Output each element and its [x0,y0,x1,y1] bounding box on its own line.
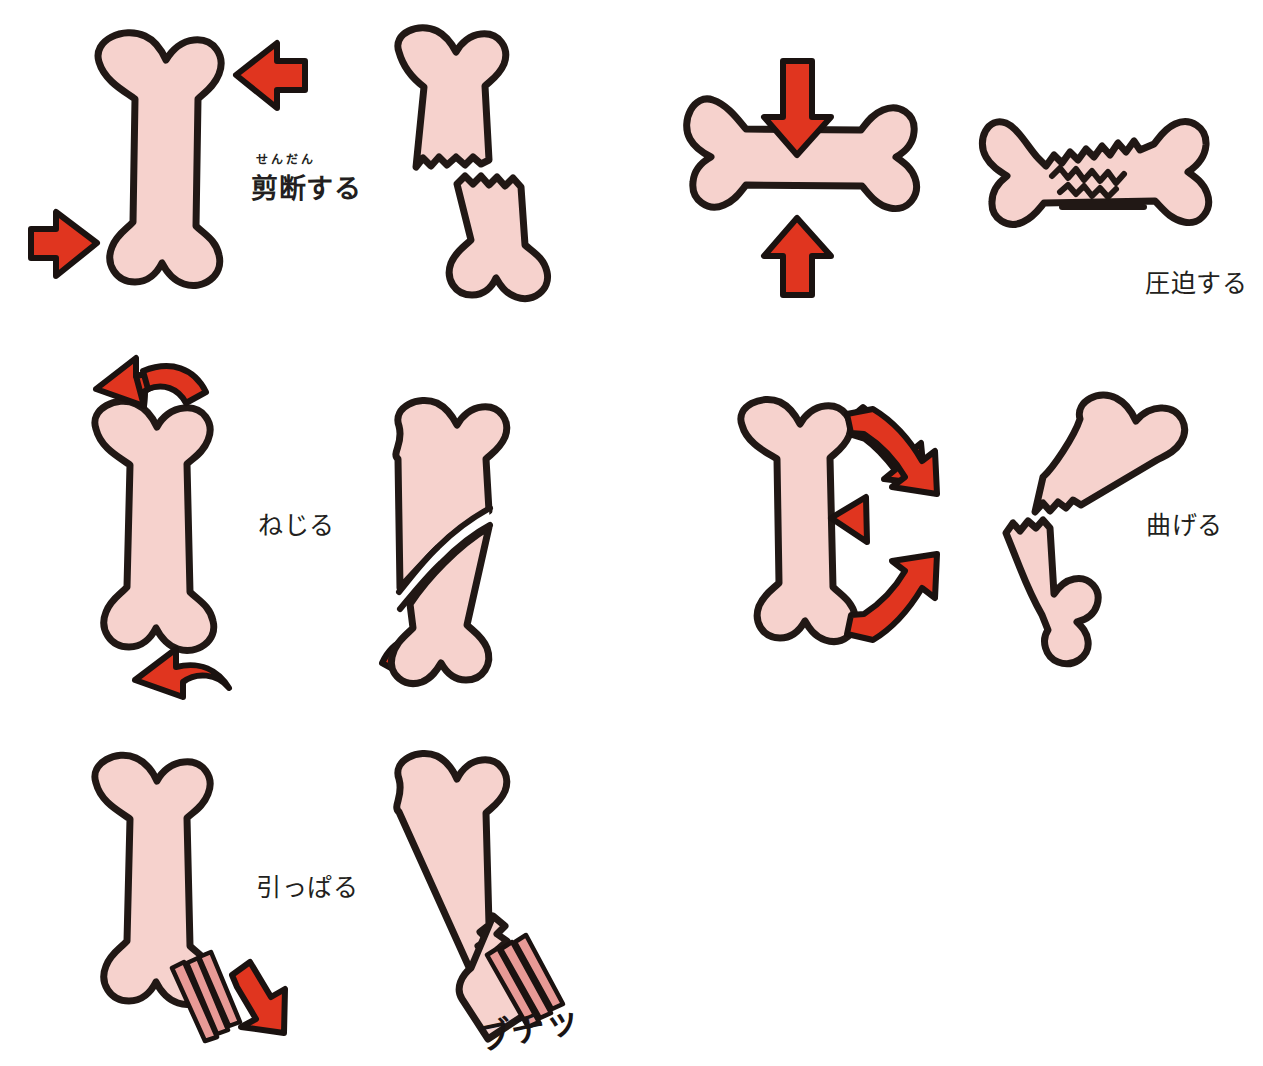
bend-arrow-upper-right [847,407,937,494]
label-pull: 引っぱる [256,867,358,903]
row-bend [741,395,1185,664]
bend-arrow-lower-right [847,554,937,640]
label-shear: 剪断する [251,167,361,206]
shear-arrow-right [31,212,97,276]
twist-arrow-curved-top [96,358,206,406]
compress-arrow-up [764,218,831,295]
bone-fracture-mechanism-figure: .bone{fill:#f6d2cd;stroke:#211815;stroke… [0,0,1263,1066]
twist-fractured-bone [391,400,506,683]
shear-arrow-left [236,43,305,108]
label-twist: ねじる [258,505,335,541]
row-compress [687,61,1209,295]
pull-fractured-bone [397,753,563,1039]
bend-arrow-triangle-left [831,497,867,542]
label-compress: 圧迫する [1145,263,1247,299]
shear-fractured-bone [398,28,548,299]
twist-intact-bone [95,401,214,650]
compress-fractured-bone [982,122,1208,225]
shear-intact-bone [98,33,221,286]
label-bend: 曲げる [1146,505,1223,541]
label-shear-furigana: せんだん [256,150,316,167]
